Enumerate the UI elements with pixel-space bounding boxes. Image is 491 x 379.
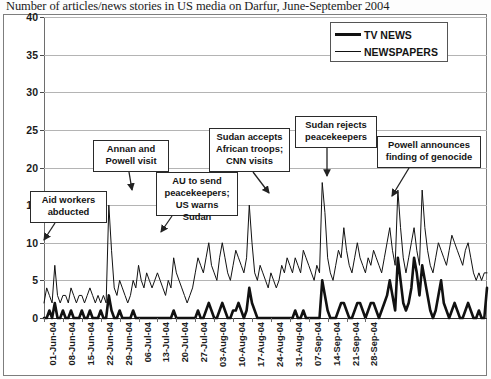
x-tick-mark-14 [309,318,310,322]
y-tick-mark-25 [40,130,44,131]
annotation-aid-workers-abducted: Aid workers abducted [30,191,107,223]
x-tick-label-13: 31-Aug-04 [294,322,304,367]
x-tick-label-5: 06-Jul-04 [143,322,153,362]
x-tick-mark-16 [347,318,348,322]
chart-title: Number of articles/news stories in US me… [6,0,486,14]
y-tick-mark-40 [40,17,44,18]
chart-screenshot: Number of articles/news stories in US me… [0,0,491,379]
x-tick-mark-17 [365,318,366,322]
x-tick-label-1: 08-Jun-04 [67,322,77,365]
x-tick-label-11: 17-Aug-04 [256,322,266,367]
x-tick-label-2: 15-Jun-04 [86,322,96,365]
y-tick-mark-10 [40,243,44,244]
y-tick-label-40: 40 [2,11,38,23]
y-tick-label-10: 10 [2,237,38,249]
legend-item-tv-news: TV NEWS [335,26,443,43]
y-tick-label-30: 30 [2,86,38,98]
legend-swatch-tv-news [335,33,361,36]
annotation-sudan-accepts-african-troops: Sudan accepts African troops; CNN visits [209,128,290,172]
annotation-sudan-rejects-peacekeepers: Sudan rejects peacekeepers [295,116,377,148]
x-tick-label-6: 13-Jul-04 [161,322,171,362]
annotation-au-to-send-peacekeepers: AU to send peacekeepers; US warns Sudan [156,172,238,216]
y-tick-label-20: 20 [2,162,38,174]
x-tick-mark-15 [328,318,329,322]
legend-label-tv-news: TV NEWS [364,29,412,41]
y-tick-mark-5 [40,280,44,281]
x-tick-label-10: 10-Aug-04 [237,322,247,367]
y-tick-label-35: 35 [2,49,38,61]
y-tick-mark-20 [40,168,44,169]
legend-swatch-newspapers [335,51,361,53]
x-tick-mark-9 [214,318,215,322]
x-tick-label-17: 28-Sep-04 [369,322,379,366]
y-tick-mark-35 [40,55,44,56]
legend-label-newspapers: NEWSPAPERS [364,46,438,58]
legend-item-newspapers: NEWSPAPERS [335,43,443,60]
x-tick-mark-5 [139,318,140,322]
y-tick-label-0: 0 [2,312,38,324]
x-tick-label-14: 07-Sep-04 [313,322,323,366]
y-tick-mark-30 [40,92,44,93]
x-tick-label-16: 21-Sep-04 [351,322,361,366]
y-tick-label-25: 25 [2,124,38,136]
x-tick-label-7: 20-Jul-04 [180,322,190,362]
x-tick-label-3: 22-Jun-04 [105,322,115,365]
x-tick-mark-12 [271,318,272,322]
x-tick-mark-4 [120,318,121,322]
x-tick-mark-13 [290,318,291,322]
x-tick-mark-8 [195,318,196,322]
x-tick-label-4: 29-Jun-04 [124,322,134,365]
x-tick-mark-6 [157,318,158,322]
x-tick-label-0: 01-Jun-04 [48,322,58,365]
x-tick-mark-11 [252,318,253,322]
y-tick-label-5: 5 [2,274,38,286]
x-tick-label-12: 24-Aug-04 [275,322,285,367]
x-tick-mark-2 [82,318,83,322]
series-line-tv-news [44,258,487,318]
x-tick-mark-3 [101,318,102,322]
x-tick-label-9: 03-Aug-04 [218,322,228,367]
annotation-powell-announces-genocide: Powell announces finding of genocide [377,136,481,168]
annotation-annan-and-powell-visit: Annan and Powell visit [93,140,169,172]
x-tick-mark-7 [176,318,177,322]
x-tick-mark-0 [44,318,45,322]
x-tick-label-8: 27-Jul-04 [199,322,209,362]
x-tick-mark-10 [233,318,234,322]
x-tick-mark-1 [63,318,64,322]
legend: TV NEWS NEWSPAPERS [330,22,448,62]
x-tick-label-15: 14-Sep-04 [332,322,342,366]
